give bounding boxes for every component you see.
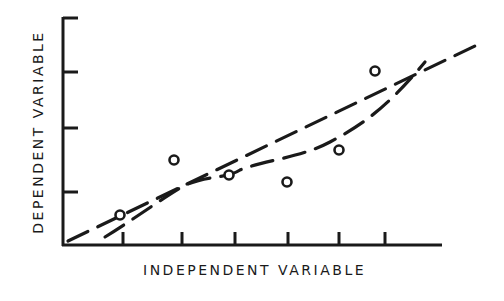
data-point: [283, 178, 292, 187]
chart-canvas: [0, 0, 504, 301]
y-ticks: [63, 18, 78, 192]
x-ticks: [123, 232, 385, 245]
y-axis-label: DEPENDENT VARIABLE: [30, 30, 46, 233]
data-point: [170, 156, 179, 165]
data-point: [225, 171, 234, 180]
data-point: [371, 67, 380, 76]
x-axis-label: INDEPENDENT VARIABLE: [143, 262, 366, 278]
nonlinear-fit-curve: [105, 62, 425, 237]
data-point: [116, 211, 125, 220]
data-point: [335, 146, 344, 155]
linear-fit-line: [68, 45, 477, 241]
data-points: [116, 67, 380, 220]
